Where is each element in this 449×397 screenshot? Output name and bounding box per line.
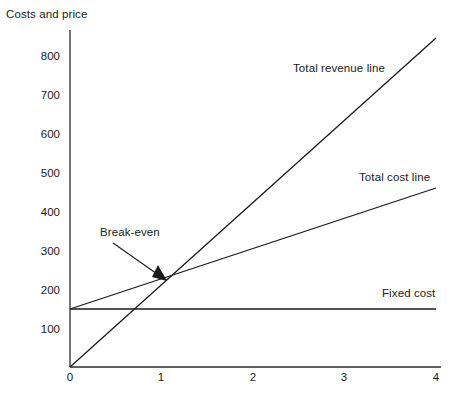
y-tick-label-400: 400: [18, 206, 60, 218]
x-tick-label-2: 2: [239, 371, 267, 383]
break-even-chart: Costs and price 800 700 600 500 400 300 …: [0, 0, 449, 397]
break-even-leader-line: [113, 243, 160, 276]
x-tick-label-3: 3: [330, 371, 358, 383]
y-tick-label-500: 500: [18, 167, 60, 179]
y-tick-label-600: 600: [18, 128, 60, 140]
chart-canvas: [0, 0, 449, 397]
y-tick-label-700: 700: [18, 89, 60, 101]
x-tick-label-1: 1: [147, 371, 175, 383]
y-tick-label-100: 100: [18, 323, 60, 335]
total-cost-line-label: Total cost line: [359, 171, 430, 183]
y-tick-label-300: 300: [18, 245, 60, 257]
y-tick-label-800: 800: [18, 50, 60, 62]
x-tick-label-4: 4: [422, 371, 449, 383]
y-axis-title: Costs and price: [6, 8, 87, 20]
break-even-annotation-label: Break-even: [100, 226, 160, 238]
total-revenue-line: [70, 38, 436, 367]
break-even-arrow-icon: [152, 265, 167, 281]
x-tick-label-0: 0: [56, 371, 84, 383]
y-tick-label-200: 200: [18, 284, 60, 296]
total-revenue-line-label: Total revenue line: [293, 62, 385, 74]
fixed-cost-line-label: Fixed cost: [382, 287, 435, 299]
